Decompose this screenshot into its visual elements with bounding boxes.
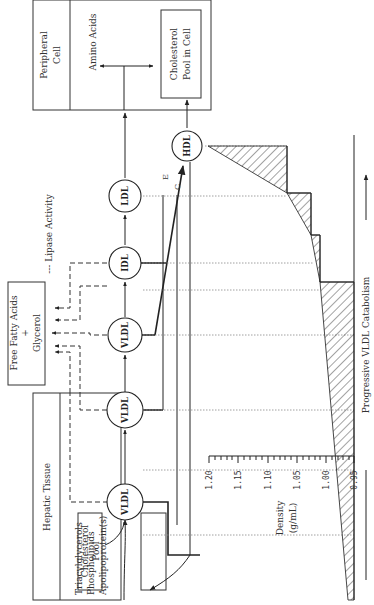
peripheral-cell-title: Peripheral xyxy=(39,31,49,79)
tick-label-1-10: 1.10 xyxy=(264,470,273,489)
svg-text:Pool in Cell: Pool in Cell xyxy=(182,28,192,80)
peripheral-cell-title-2: Cell xyxy=(52,46,62,64)
svg-text:Cholesterol: Cholesterol xyxy=(80,525,90,578)
svg-text:Cholesterol: Cholesterol xyxy=(169,28,179,81)
particle-idl: IDL xyxy=(109,247,141,279)
svg-text:LDL: LDL xyxy=(120,186,130,205)
ffa-plus: + xyxy=(20,329,30,337)
catabolism-arrow: Progressive VLDL Catabolism xyxy=(361,175,371,580)
hepatic-cholesterol-pool-box xyxy=(141,513,166,590)
catabolism-label: Progressive VLDL Catabolism xyxy=(361,276,371,413)
peripheral-cell-box: Peripheral Cell Amino Acids Cholesterol … xyxy=(33,0,211,110)
particle-vldl-2: VLDL xyxy=(107,392,143,428)
svg-text:HDL: HDL xyxy=(182,135,192,156)
svg-text:VLDL: VLDL xyxy=(120,397,130,424)
amino-acids-label: Amino Acids xyxy=(88,13,98,71)
tick-label-1-20: 1.20 xyxy=(205,470,214,489)
apo-c-label: C xyxy=(173,184,182,190)
svg-text:VLDL: VLDL xyxy=(120,322,130,349)
ffa-label: Free Fatty Acids xyxy=(9,295,19,370)
particle-ldl: LDL xyxy=(109,180,141,212)
glycerol-label: Glycerol xyxy=(32,314,42,352)
apo-e-label: E xyxy=(161,174,170,180)
cell-cholesterol-pool-box: Cholesterol Pool in Cell xyxy=(161,10,201,98)
tick-label-1-00: 1.00 xyxy=(322,470,331,489)
tick-label-0-95: 0.95 xyxy=(350,470,359,489)
lipase-activity-legend: --- Lipase Activity xyxy=(44,193,54,273)
apoprotein-transfer-lines: E C xyxy=(141,162,200,590)
svg-text:Pool: Pool xyxy=(91,541,101,561)
particle-hdl: HDL xyxy=(172,131,202,161)
density-axis-title: Density xyxy=(275,500,285,535)
ffa-glycerol-box: Free Fatty Acids + Glycerol xyxy=(8,282,45,385)
density-axis-unit: (g/mL) xyxy=(288,503,298,533)
particle-vldl-3: VLDL xyxy=(108,318,142,352)
density-axis: 1.20 1.15 1.10 1.05 1.00 0.95 Density (g… xyxy=(205,456,359,535)
particle-vldl-1: VLDL xyxy=(107,484,143,520)
axis-ticks xyxy=(209,456,354,463)
hepatic-tissue-title: Hepatic Tissue xyxy=(42,463,52,531)
tick-label-1-15: 1.15 xyxy=(234,470,243,489)
particle-chain: VLDL VLDL VLDL IDL LDL HDL xyxy=(105,100,202,600)
lipoprotein-metabolism-diagram: Peripheral Cell Amino Acids Cholesterol … xyxy=(0,0,374,605)
hepatic-tissue-box: Hepatic Tissue Triacylglycerols Phosphol… xyxy=(33,393,166,600)
svg-text:VLDL: VLDL xyxy=(120,489,130,516)
svg-text:IDL: IDL xyxy=(120,254,130,271)
tick-label-1-05: 1.05 xyxy=(293,470,302,489)
